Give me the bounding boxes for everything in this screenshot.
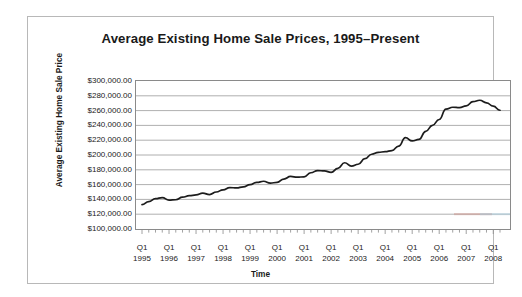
- chart-title: Average Existing Home Sale Prices, 1995–…: [28, 31, 493, 46]
- y-axis-tick-label: $180,000.00: [60, 165, 132, 174]
- chart-canvas: [136, 81, 510, 229]
- x-tick-year: 2008: [473, 254, 513, 265]
- x-axis-tick-labels: Q11995Q11996Q11997Q11998Q11999Q12000Q120…: [135, 239, 511, 267]
- y-axis-tick-label: $280,000.00: [60, 91, 132, 100]
- y-axis-tick-label: $160,000.00: [60, 180, 132, 189]
- print-artifacts: [454, 213, 510, 215]
- y-axis-tick-label: $260,000.00: [60, 106, 132, 115]
- y-axis-tick-label: $100,000.00: [60, 224, 132, 233]
- y-axis-tick-label: $200,000.00: [60, 150, 132, 159]
- x-axis-tick-label: Q12008: [473, 243, 513, 264]
- gridlines: [136, 96, 510, 214]
- y-axis-tick-label: $140,000.00: [60, 194, 132, 203]
- chart-screenshot: Average Existing Home Sale Prices, 1995–…: [0, 0, 522, 297]
- print-artifact: [480, 213, 510, 215]
- y-axis-tick-label: $220,000.00: [60, 135, 132, 144]
- y-axis-tick-label: $240,000.00: [60, 120, 132, 129]
- y-axis-tick-label: $300,000.00: [60, 76, 132, 85]
- x-tick-quarter: Q1: [473, 243, 513, 254]
- price-line-series: [142, 100, 500, 204]
- plot-area: [135, 80, 511, 230]
- y-axis-tick-labels: $300,000.00$280,000.00$260,000.00$240,00…: [56, 80, 132, 230]
- y-axis-tick-label: $120,000.00: [60, 209, 132, 218]
- x-axis-title: Time: [28, 269, 493, 279]
- chart-frame: Average Existing Home Sale Prices, 1995–…: [27, 16, 494, 284]
